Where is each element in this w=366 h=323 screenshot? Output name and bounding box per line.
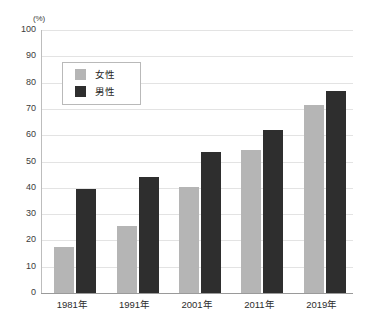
y-tick-100: 100 <box>8 25 36 34</box>
bar-chart: (%) 1009080706050403020100 1981年1991年200… <box>0 0 366 323</box>
legend: 女性 男性 <box>62 62 141 105</box>
x-axis-tick-labels: 1981年1991年2001年2011年2019年 <box>41 297 353 317</box>
y-axis-unit-label: (%) <box>33 14 45 23</box>
bar-male <box>139 177 159 293</box>
x-tick-2001年: 2001年 <box>166 297 228 311</box>
bar-female <box>241 150 261 293</box>
y-tick-0: 0 <box>8 288 36 297</box>
y-tick-90: 90 <box>8 51 36 60</box>
legend-item-male: 男性 <box>75 86 115 97</box>
bar-group <box>304 30 346 293</box>
y-tick-60: 60 <box>8 130 36 139</box>
bar-male <box>76 189 96 293</box>
bar-group <box>241 30 283 293</box>
y-tick-20: 20 <box>8 235 36 244</box>
y-tick-50: 50 <box>8 157 36 166</box>
bar-male <box>201 152 221 293</box>
bar-male <box>263 130 283 293</box>
x-tick-1991年: 1991年 <box>103 297 165 311</box>
x-tick-1981年: 1981年 <box>41 297 103 311</box>
y-tick-40: 40 <box>8 183 36 192</box>
y-tick-30: 30 <box>8 209 36 218</box>
bar-female <box>304 105 324 293</box>
x-tick-2011年: 2011年 <box>228 297 290 311</box>
bar-female <box>179 187 199 294</box>
bar-female <box>54 247 74 293</box>
y-tick-70: 70 <box>8 104 36 113</box>
bar-female <box>117 226 137 293</box>
legend-swatch-female-icon <box>75 69 86 80</box>
legend-label-male: 男性 <box>95 86 115 97</box>
legend-swatch-male-icon <box>75 86 86 97</box>
legend-label-female: 女性 <box>95 69 115 80</box>
y-tick-80: 80 <box>8 78 36 87</box>
y-tick-10: 10 <box>8 262 36 271</box>
bar-male <box>326 91 346 294</box>
bar-group <box>179 30 221 293</box>
x-tick-2019年: 2019年 <box>291 297 353 311</box>
x-axis-baseline <box>41 293 353 294</box>
legend-item-female: 女性 <box>75 69 115 80</box>
